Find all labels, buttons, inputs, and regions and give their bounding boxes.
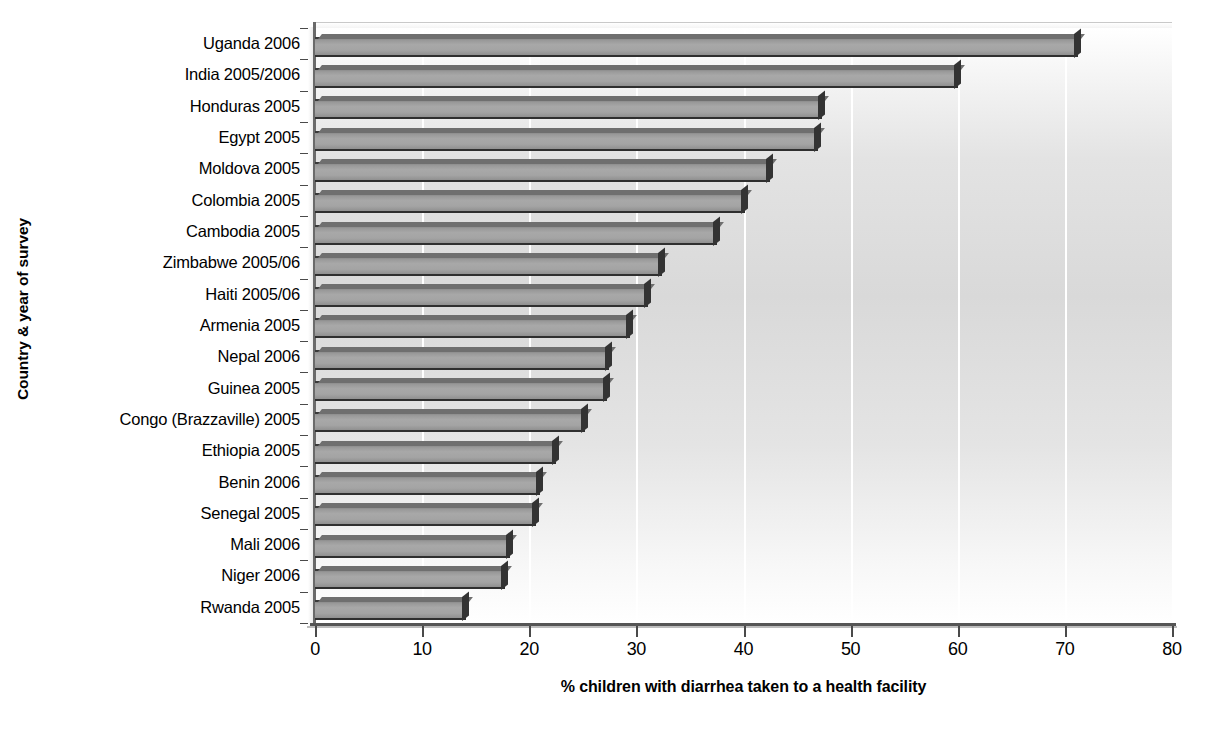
category-label: Honduras 2005: [40, 91, 308, 122]
bar-slot: [315, 498, 1172, 529]
x-axis-tick: [636, 626, 638, 637]
bar-end-cap: [536, 467, 543, 496]
category-label: Armenia 2005: [40, 310, 308, 341]
x-axis-tick-label: 0: [285, 639, 345, 660]
category-label: Senegal 2005: [40, 498, 308, 529]
x-axis-tick: [529, 626, 531, 637]
category-label: Haiti 2005/06: [40, 279, 308, 310]
bar-end-cap: [506, 529, 513, 558]
bar[interactable]: [315, 37, 1078, 57]
bar-top-face: [318, 315, 637, 320]
bar-top-face: [318, 597, 473, 602]
bar-chart: Country & year of survey Uganda 2006Indi…: [0, 0, 1218, 744]
bar-end-cap: [766, 153, 773, 182]
bar-end-cap: [644, 279, 651, 308]
bar-end-cap: [814, 122, 821, 151]
y-axis-title: Country & year of survey: [14, 164, 32, 454]
bar-end-cap: [741, 185, 748, 214]
category-label: Benin 2006: [40, 466, 308, 497]
x-axis-tick: [1172, 626, 1174, 637]
bar[interactable]: [315, 412, 585, 432]
bar-slot: [315, 185, 1172, 216]
bar[interactable]: [315, 600, 466, 620]
x-axis-tick-label: 50: [821, 639, 881, 660]
bar-end-cap: [462, 592, 469, 621]
bars-layer: [315, 28, 1172, 623]
gridline: [1172, 28, 1174, 623]
bar-top-face: [318, 441, 563, 446]
bar-slot: [315, 59, 1172, 90]
bar-slot: [315, 279, 1172, 310]
bar-slot: [315, 341, 1172, 372]
bar-top-face: [318, 159, 777, 164]
bar-slot: [315, 91, 1172, 122]
bar-end-cap: [658, 247, 665, 276]
bar-top-face: [318, 472, 547, 477]
bar-end-cap: [552, 435, 559, 464]
bar[interactable]: [315, 569, 505, 589]
bar[interactable]: [315, 350, 609, 370]
bar[interactable]: [315, 193, 745, 213]
bar-top-face: [318, 96, 829, 101]
bar-end-cap: [1074, 28, 1081, 57]
bar[interactable]: [315, 99, 822, 119]
bar-top-face: [318, 347, 615, 352]
bar[interactable]: [315, 256, 662, 276]
bar-end-cap: [581, 404, 588, 433]
bar-slot: [315, 310, 1172, 341]
bar-slot: [315, 560, 1172, 591]
bar-top-face: [318, 222, 724, 227]
category-label: Mali 2006: [40, 529, 308, 560]
bar-slot: [315, 372, 1172, 403]
x-axis-tick-label: 70: [1035, 639, 1095, 660]
x-axis-tick-label: 80: [1142, 639, 1202, 660]
bar-slot: [315, 529, 1172, 560]
x-axis-tick-label: 30: [606, 639, 666, 660]
category-label: Zimbabwe 2005/06: [40, 247, 308, 278]
bar-top-face: [318, 253, 669, 258]
bar-slot: [315, 28, 1172, 59]
bar-slot: [315, 122, 1172, 153]
x-axis-tick: [744, 626, 746, 637]
bar-slot: [315, 435, 1172, 466]
x-axis-tick-label: 10: [392, 639, 452, 660]
bar[interactable]: [315, 538, 510, 558]
category-label: Colombia 2005: [40, 185, 308, 216]
x-axis-tick-labels: 01020304050607080: [315, 639, 1172, 665]
bar[interactable]: [315, 381, 607, 401]
bar[interactable]: [315, 287, 648, 307]
category-label: Niger 2006: [40, 560, 308, 591]
category-label: Cambodia 2005: [40, 216, 308, 247]
x-axis-tick: [851, 626, 853, 637]
bar[interactable]: [315, 506, 536, 526]
bar-end-cap: [532, 498, 539, 527]
bar-top-face: [318, 34, 1085, 39]
x-axis-ticks: [315, 626, 1172, 638]
bar-slot: [315, 404, 1172, 435]
bar-slot: [315, 592, 1172, 623]
bar-end-cap: [605, 341, 612, 370]
x-axis-tick-label: 40: [714, 639, 774, 660]
category-label: Congo (Brazzaville) 2005: [40, 404, 308, 435]
x-axis-tick: [422, 626, 424, 637]
bar[interactable]: [315, 68, 958, 88]
bar-end-cap: [501, 561, 508, 590]
x-axis-tick-label: 20: [499, 639, 559, 660]
bar[interactable]: [315, 131, 818, 151]
bar[interactable]: [315, 318, 630, 338]
bar-end-cap: [626, 310, 633, 339]
bar[interactable]: [315, 162, 770, 182]
bar-end-cap: [954, 59, 961, 88]
category-label: Moldova 2005: [40, 153, 308, 184]
category-label: Ethiopia 2005: [40, 435, 308, 466]
bar[interactable]: [315, 225, 717, 245]
x-axis-tick-label: 60: [928, 639, 988, 660]
bar-end-cap: [603, 373, 610, 402]
bar[interactable]: [315, 444, 556, 464]
bar[interactable]: [315, 475, 540, 495]
bar-top-face: [318, 566, 512, 571]
bar-top-face: [318, 190, 751, 195]
x-axis-tick: [1065, 626, 1067, 637]
category-label: Uganda 2006: [40, 28, 308, 59]
bar-end-cap: [818, 91, 825, 120]
